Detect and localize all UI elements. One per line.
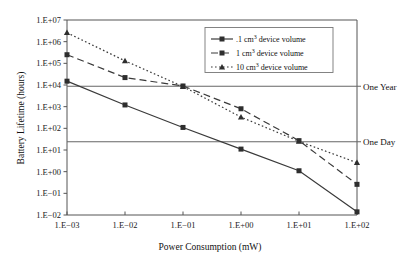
data-point-marker (355, 209, 360, 214)
y-tick-label: 1.E+05 (36, 58, 61, 68)
y-tick-label: 1.E+01 (36, 145, 61, 155)
data-point-marker (181, 125, 186, 130)
x-tick-label: 1.E−01 (171, 220, 196, 230)
y-tick-label: 1.E−02 (36, 210, 61, 220)
y-axis-title: Battery Lifetime (hours) (16, 72, 27, 165)
legend-item-label: .1 cm3 device volume (236, 34, 306, 44)
chart-container: 1.E−021.E−011.E+001.E+011.E+021.E+031.E+… (0, 0, 400, 262)
x-tick-label: 1.E+00 (229, 220, 254, 230)
x-tick-label: 1.E+02 (345, 220, 370, 230)
legend: .1 cm3 device volume1 cm3 device volume1… (205, 28, 333, 73)
y-tick-label: 1.E−01 (36, 188, 61, 198)
y-tick-label: 1.E+06 (36, 37, 61, 47)
x-axis-title: Power Consumption (mW) (159, 242, 262, 253)
legend-item-label: 10 cm3 device volume (236, 62, 308, 72)
annotation-label: One Day (363, 137, 396, 147)
data-point-marker (239, 147, 244, 152)
data-point-marker (123, 75, 128, 80)
data-point-marker (65, 79, 70, 84)
y-tick-label: 1.E+03 (36, 102, 61, 112)
legend-item-label: 1 cm3 device volume (236, 48, 304, 58)
data-point-marker (220, 51, 225, 56)
data-point-marker (355, 182, 360, 187)
data-point-marker (123, 102, 128, 107)
x-tick-label: 1.E−03 (55, 220, 80, 230)
data-point-marker (65, 52, 70, 57)
y-tick-label: 1.E+00 (36, 167, 61, 177)
y-tick-label: 1.E+02 (36, 123, 61, 133)
annotation-label: One Year (363, 82, 397, 92)
y-tick-label: 1.E+07 (36, 15, 61, 25)
data-point-marker (297, 168, 302, 173)
y-tick-label: 1.E+04 (36, 80, 62, 90)
battery-lifetime-chart: 1.E−021.E−011.E+001.E+011.E+021.E+031.E+… (0, 0, 400, 262)
data-point-marker (220, 37, 225, 42)
x-tick-label: 1.E+01 (287, 220, 312, 230)
x-tick-label: 1.E−02 (113, 220, 138, 230)
data-point-marker (239, 106, 244, 111)
